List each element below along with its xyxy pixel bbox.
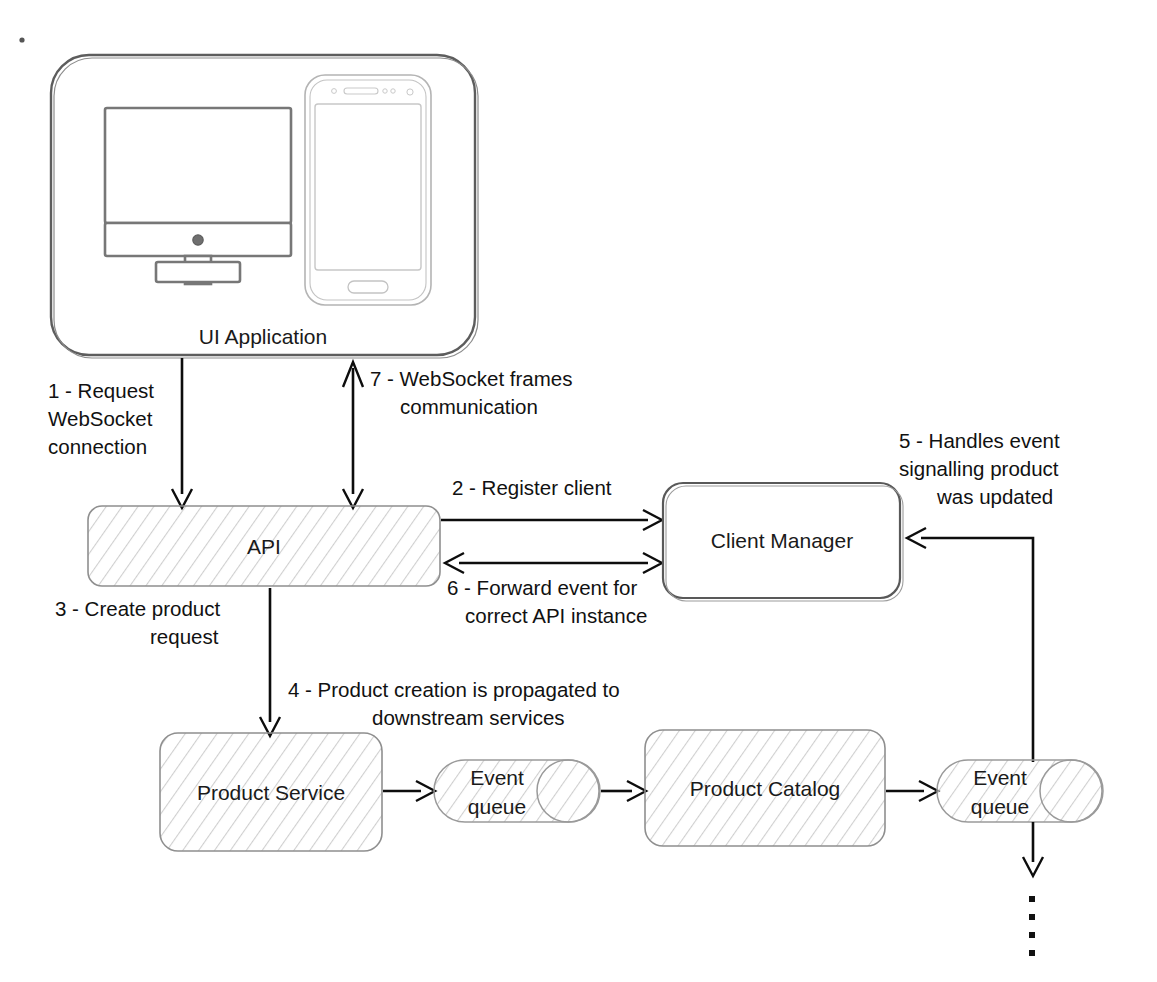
flow-1-label-line-2: WebSocket (48, 407, 153, 430)
diagram-canvas: UI Application API (0, 0, 1157, 982)
ui-application-label: UI Application (199, 325, 327, 348)
mobile-phone-icon (305, 75, 431, 305)
flow-7-label-line-2: communication (400, 395, 538, 418)
flow-4-label: 4 - Product creation is propagated to do… (288, 678, 620, 729)
ellipsis-dots (1029, 896, 1035, 956)
arrow-product-service-to-event-queue-1[interactable] (383, 781, 435, 801)
node-ui-application[interactable]: UI Application (51, 55, 478, 358)
node-client-manager[interactable]: Client Manager (663, 483, 903, 601)
flow-2-register-client[interactable] (441, 510, 662, 530)
arrow-product-catalog-to-event-queue-2[interactable] (886, 781, 938, 801)
flow-3-label: 3 - Create product request (55, 597, 221, 648)
flow-4-label-line-2: downstream services (372, 706, 565, 729)
client-manager-label: Client Manager (711, 529, 853, 552)
flow-7-label-line-1: 7 - WebSocket frames (370, 367, 572, 390)
product-service-label: Product Service (197, 781, 345, 804)
node-event-queue-2[interactable]: Event queue (937, 760, 1103, 822)
node-api[interactable]: API (88, 506, 440, 586)
flow-5-label-line-2: signalling product (899, 457, 1059, 480)
flow-3-create-product-request[interactable] (260, 588, 280, 736)
node-product-service[interactable]: Product Service (160, 733, 382, 851)
flow-6-label: 6 - Forward event for correct API instan… (447, 576, 647, 627)
flow-6-label-line-1: 6 - Forward event for (447, 576, 637, 599)
flow-7-label: 7 - WebSocket frames communication (370, 367, 572, 418)
event-queue-2-label-line2: queue (971, 795, 1029, 818)
flow-5-label: 5 - Handles event signalling product was… (899, 429, 1060, 508)
arrow-event-queue-1-to-product-catalog[interactable] (601, 781, 646, 801)
flow-5-label-line-3: was updated (936, 485, 1053, 508)
flow-5-handles-event-signalling-product-was-updated[interactable] (907, 528, 1033, 762)
flow-3-label-line-2: request (150, 625, 219, 648)
flow-6-label-line-2: correct API instance (465, 604, 647, 627)
flow-6-forward-event-for-correct-api-instance[interactable] (445, 553, 662, 573)
flow-1-label: 1 - Request WebSocket connection (48, 379, 154, 458)
product-catalog-label: Product Catalog (690, 777, 841, 800)
node-product-catalog[interactable]: Product Catalog (645, 730, 885, 846)
flow-5-label-line-1: 5 - Handles event (899, 429, 1060, 452)
flow-4-label-line-1: 4 - Product creation is propagated to (288, 678, 620, 701)
flow-1-label-line-3: connection (48, 435, 147, 458)
architecture-diagram: UI Application API (0, 0, 1157, 982)
flow-7-websocket-frames-communication[interactable] (343, 362, 363, 508)
event-queue-2-label-line1: Event (973, 766, 1027, 789)
flow-2-label-line-1: 2 - Register client (452, 476, 612, 499)
scan-artifact-dot (19, 37, 24, 42)
api-label: API (247, 535, 281, 558)
event-queue-1-label-line2: queue (468, 795, 526, 818)
flow-2-label: 2 - Register client (452, 476, 612, 499)
flow-1-request-websocket-connection[interactable] (172, 358, 192, 508)
flow-1-label-line-1: 1 - Request (48, 379, 154, 402)
event-queue-1-label-line1: Event (470, 766, 524, 789)
node-event-queue-1[interactable]: Event queue (434, 760, 600, 822)
continuation-arrow-downstream[interactable] (1023, 822, 1043, 876)
flow-3-label-line-1: 3 - Create product (55, 597, 221, 620)
